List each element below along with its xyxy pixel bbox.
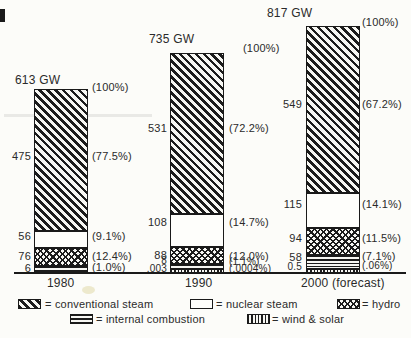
bar-1990-nuclear-steam-segment: [170, 214, 224, 247]
bar-2000-nuclear-value: 115: [258, 198, 302, 210]
capacity-stacked-bar-figure: 613 GW (100%) 475 (77.5%) 56 (9.1%) 76 (…: [0, 0, 411, 338]
bar-1980-hydro-segment: [34, 248, 88, 266]
bar-2000-nuclear-steam-segment: [306, 193, 360, 228]
bar-2000-conventional-value: 549: [258, 98, 302, 110]
legend-wind-solar-swatch-icon: [247, 314, 270, 324]
scan-stain: [82, 286, 95, 294]
bar-1980-nuclear-steam-segment: [34, 231, 88, 248]
bar-1980-total-pct: (100%): [92, 81, 129, 93]
bar-2000-wind-solar-pct: (.06%): [362, 261, 393, 271]
bar-1990-total-label: 735 GW: [149, 33, 194, 45]
bar-1990-hydro-segment: [170, 247, 224, 264]
scan-artifact: [0, 9, 5, 22]
bar-1990-conventional-pct: (72.2%): [229, 122, 269, 134]
bar-1980-conventional-steam-segment: [34, 89, 88, 231]
x-axis-label-2000-forecast: 2000 (forecast): [301, 277, 385, 289]
legend-hydro-label: = hydro: [362, 298, 400, 310]
x-axis-label-1990: 1990: [185, 277, 213, 289]
legend-hydro-swatch-icon: [337, 299, 360, 309]
legend-conventional-steam-swatch-icon: [18, 299, 41, 309]
bar-2000-hydro-value: 94: [258, 232, 302, 244]
bar-2000-hydro-pct: (11.5%): [362, 232, 401, 244]
bar-1980-nuclear-pct: (9.1%): [92, 230, 126, 242]
bar-1980-conventional-value: 475: [0, 150, 31, 162]
bar-2000-total-pct: (100%): [362, 16, 399, 28]
x-axis-label-1980: 1980: [47, 277, 75, 289]
bar-1990-nuclear-value: 108: [128, 216, 167, 228]
bar-2000-nuclear-pct: (14.1%): [362, 198, 402, 210]
bar-1980-conventional-pct: (77.5%): [92, 150, 132, 162]
bar-2000-total-label: 817 GW: [267, 7, 312, 19]
legend-wind-solar-label: = wind & solar: [272, 313, 344, 325]
legend-nuclear-steam-swatch-icon: [190, 299, 213, 309]
bar-1990-nuclear-pct: (14.7%): [229, 216, 269, 228]
bar-2000-hydro-segment: [306, 228, 360, 255]
legend-internal-combustion-label: = internal combustion: [96, 313, 205, 325]
bar-1980-hydro-value: 76: [0, 250, 31, 262]
bar-2000-conventional-steam-segment: [306, 26, 360, 193]
bar-1980-total-label: 613 GW: [15, 74, 60, 86]
legend-nuclear-steam-label: = nuclear steam: [216, 298, 298, 310]
bar-1990-total-pct: (100%): [243, 42, 280, 54]
bar-2000-internal-combustion-segment: [306, 255, 360, 269]
legend-conventional-steam-label: = conventional steam: [45, 298, 153, 310]
bar-2000-conventional-pct: (67.2%): [362, 98, 402, 110]
bar-1980-nuclear-value: 56: [0, 230, 31, 242]
x-axis-line: [14, 272, 406, 274]
legend-internal-combustion-swatch-icon: [70, 314, 93, 324]
bar-1990-conventional-value: 531: [128, 122, 167, 134]
bar-1990-conventional-steam-segment: [170, 53, 224, 214]
bar-2000-wind-solar-value: 0.5: [258, 262, 302, 272]
